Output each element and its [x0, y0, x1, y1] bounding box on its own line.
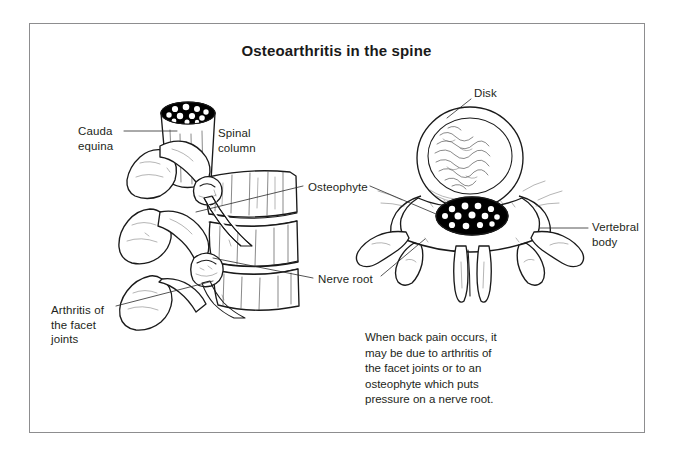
illustration-root: Osteoarthritis in the spine .ol { fill:n…: [0, 0, 673, 456]
lateral-spine-figure: [119, 102, 299, 330]
label-disk: Disk: [474, 86, 497, 101]
label-cauda-equina: Cauda equina: [78, 124, 113, 153]
label-arthritis-facet-joints: Arthritis of the facet joints: [51, 303, 104, 347]
caption-note: When back pain occurs, it may be due to …: [365, 330, 530, 408]
intervertebral-disk: [417, 107, 523, 209]
vertebra-body-lower: [214, 269, 299, 310]
label-vertebral-body: Vertebral body: [592, 220, 639, 249]
spine-artwork: .ol { fill:none; stroke:#1a1a1a; stroke-…: [0, 0, 673, 456]
label-nerve-root: Nerve root: [318, 272, 373, 287]
spinous-process-axial: [454, 246, 492, 302]
axial-vertebra-figure: [356, 107, 583, 302]
label-spinal-column: Spinal column: [218, 126, 256, 155]
facet-joint-upper: [194, 177, 223, 205]
spinal-canal: [436, 197, 508, 235]
label-osteophyte: Osteophyte: [308, 180, 368, 195]
